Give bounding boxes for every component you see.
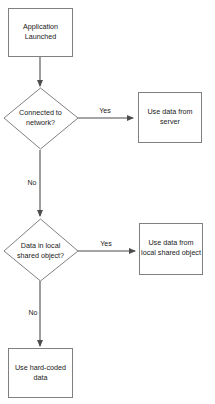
node-decision-connected-to-network-line1: Connected to	[19, 108, 62, 117]
node-use-data-from-server-line2: server	[160, 117, 181, 126]
node-use-data-from-local-shared-object[interactable]: Use data from local shared object	[140, 224, 203, 275]
edge-label-decision-local-no: No	[29, 309, 38, 316]
edge-decision-local-yes: Yes	[78, 240, 135, 251]
edge-decision-network-yes: Yes	[78, 107, 133, 118]
edge-label-decision-network-no: No	[28, 179, 37, 186]
edge-decision-local-no: No	[29, 281, 40, 346]
node-application-launched-line1: Application	[23, 22, 58, 31]
edge-decision-network-no: No	[28, 150, 40, 216]
node-decision-data-in-local-shared-object-line1: Data in local	[21, 241, 61, 250]
flowchart-svg: Yes No Yes No Application Launched Conne…	[0, 0, 215, 404]
node-decision-connected-to-network-line2: network?	[26, 118, 55, 127]
edge-label-decision-network-yes: Yes	[99, 107, 111, 114]
node-decision-data-in-local-shared-object[interactable]: Data in local shared object?	[4, 219, 78, 281]
flowchart-canvas: Yes No Yes No Application Launched Conne…	[0, 0, 215, 404]
node-application-launched[interactable]: Application Launched	[9, 9, 73, 57]
node-use-data-from-server[interactable]: Use data from server	[139, 93, 202, 143]
node-use-hard-coded-data[interactable]: Use hard-coded data	[9, 349, 73, 398]
node-decision-data-in-local-shared-object-line2: shared object?	[17, 251, 64, 260]
node-use-hard-coded-data-line2: data	[34, 373, 48, 382]
node-use-data-from-local-shared-object-line1: Use data from	[148, 238, 193, 247]
edge-label-decision-local-yes: Yes	[100, 240, 112, 247]
node-use-data-from-local-shared-object-line2: local shared object	[141, 248, 201, 257]
node-use-hard-coded-data-line1: Use hard-coded	[15, 363, 66, 372]
node-use-data-from-server-line1: Use data from	[147, 107, 192, 116]
node-application-launched-line2: Launched	[25, 32, 57, 41]
node-decision-connected-to-network[interactable]: Connected to network?	[4, 88, 78, 149]
